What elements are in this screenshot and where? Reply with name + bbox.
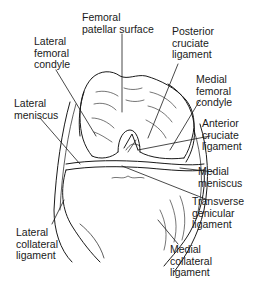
femur-drawing	[79, 72, 194, 162]
label-transverse-genicular-ligament: Transverse genicular ligament	[192, 196, 244, 231]
label-lateral-meniscus: Lateral meniscus	[14, 98, 58, 121]
label-lateral-collateral-ligament: Lateral collateral ligament	[16, 227, 58, 262]
label-posterior-cruciate-ligament: Posterior cruciate ligament	[172, 26, 214, 61]
label-lateral-femoral-condyle: Lateral femoral condyle	[34, 36, 70, 71]
label-medial-meniscus: Medial meniscus	[198, 166, 242, 189]
label-femoral-patellar-surface: Femoral patellar surface	[82, 12, 154, 35]
label-medial-femoral-condyle: Medial femoral condyle	[196, 74, 232, 109]
label-anterior-cruciate-ligament: Anterior cruciate ligament	[202, 118, 242, 153]
menisci-drawing	[66, 161, 204, 178]
label-medial-collateral-ligament: Medial collateral ligament	[170, 244, 212, 279]
